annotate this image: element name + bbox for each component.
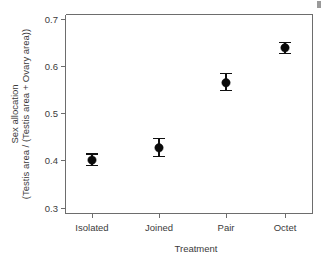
y-tick-label-0: 0.7 [45, 14, 58, 25]
x-tick-label-pair: Pair [218, 222, 235, 233]
page-corner-artifact [317, 1, 321, 8]
y-tick-label-4: 0.3 [45, 203, 58, 214]
y-axis-title-line1: Sex allocation [9, 84, 20, 143]
figure-container: 0.7 0.6 0.5 0.4 0.3 Isolated Joined Pair… [0, 0, 324, 265]
x-tick-label-isolated: Isolated [75, 222, 108, 233]
y-tick-label-3: 0.4 [45, 155, 58, 166]
x-tick-label-joined: Joined [145, 222, 173, 233]
x-tick-label-octet: Octet [274, 222, 297, 233]
x-axis-title: Treatment [175, 243, 218, 254]
sex-allocation-scatter-chart: 0.7 0.6 0.5 0.4 0.3 Isolated Joined Pair… [0, 0, 324, 265]
y-tick-label-1: 0.6 [45, 61, 58, 72]
y-tick-label-2: 0.5 [45, 108, 58, 119]
y-axis-title-line2: (Testis area / (Testis area + Ovary area… [20, 29, 31, 199]
